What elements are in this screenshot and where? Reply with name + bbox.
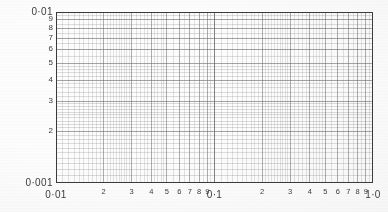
y-axis-minor-label: 4 <box>49 76 53 84</box>
y-axis-minor-label: 6 <box>49 45 53 53</box>
x-axis-decade-label: 0·1 <box>201 190 229 200</box>
y-axis-minor-label: 8 <box>49 24 53 32</box>
x-axis-decade-label: 0·01 <box>42 190 70 200</box>
x-axis-decade-label: 1·0 <box>359 190 387 200</box>
y-axis-decade-label: 0·001 <box>25 178 53 188</box>
y-axis-minor-label: 3 <box>49 97 53 105</box>
graph-paper-sheet: 0·01987654320·001 0·01234567890·12345678… <box>0 0 388 212</box>
y-axis-minor-label: 7 <box>49 34 53 42</box>
x-axis-minor-label: 2 <box>248 188 276 196</box>
y-axis-minor-label: 2 <box>49 127 53 135</box>
y-axis-minor-label: 5 <box>49 59 53 67</box>
log-log-grid <box>56 12 373 183</box>
x-axis-minor-label: 2 <box>90 188 118 196</box>
